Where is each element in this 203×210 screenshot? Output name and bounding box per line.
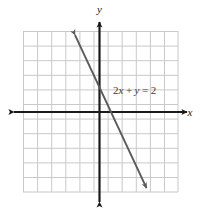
y-axis-label: y — [96, 3, 102, 15]
graph-figure: x y 2x+y=2 — [0, 0, 203, 210]
equation-plus: + — [126, 84, 132, 96]
coordinate-plane-svg: x y 2x+y=2 — [0, 0, 203, 210]
x-axis-label: x — [187, 106, 193, 118]
equation-var-y: y — [134, 84, 140, 96]
equation-var-x: x — [118, 84, 124, 96]
equation-equals: = — [142, 84, 148, 96]
equation-annotation: 2x+y=2 — [113, 84, 156, 96]
equation-constant: 2 — [151, 84, 157, 96]
